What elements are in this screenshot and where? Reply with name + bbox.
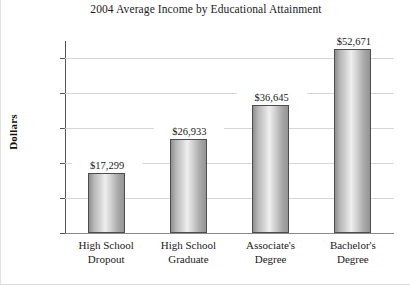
- bar: [252, 105, 289, 233]
- plot-area: [65, 41, 394, 233]
- chart-title: 2004 Average Income by Educational Attai…: [1, 2, 410, 17]
- x-axis-category-label: Bachelor'sDegree: [303, 239, 403, 266]
- bar: [88, 173, 125, 233]
- bar-value-label: $36,645: [237, 92, 307, 103]
- y-tick-mark: [60, 93, 65, 94]
- chart-figure: 2004 Average Income by Educational Attai…: [0, 0, 410, 285]
- x-axis-category-label-line: Bachelor's: [303, 239, 403, 253]
- y-tick-mark: [60, 233, 65, 234]
- bar: [334, 49, 371, 233]
- y-tick-mark: [60, 163, 65, 164]
- y-tick-mark: [60, 198, 65, 199]
- bar-value-label: $26,933: [154, 126, 224, 137]
- y-tick-mark: [60, 128, 65, 129]
- y-tick-mark: [60, 58, 65, 59]
- bar-value-label: $17,299: [72, 160, 142, 171]
- bar: [170, 139, 207, 233]
- x-axis-category-label-line: Degree: [303, 253, 403, 267]
- bar-value-label: $52,671: [319, 36, 389, 47]
- gridline: [65, 233, 394, 234]
- y-axis-title: Dollars: [7, 97, 19, 167]
